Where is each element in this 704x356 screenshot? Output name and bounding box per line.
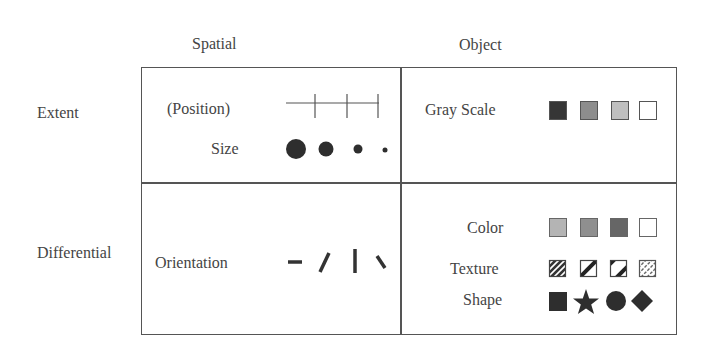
size-circles-icon	[286, 139, 388, 159]
glyph-layer	[0, 0, 704, 356]
square-dark-gray-icon	[611, 219, 628, 237]
square-dark-icon	[550, 102, 567, 120]
gray-scale-squares	[550, 102, 657, 120]
hatch-single-icon	[578, 258, 599, 279]
square-light-icon	[612, 102, 629, 120]
color-squares	[550, 219, 657, 237]
orientation-marks	[288, 249, 385, 273]
texture-squares	[545, 255, 659, 280]
star-shape-icon	[573, 289, 599, 314]
circle-small-icon	[354, 145, 363, 154]
square-shape-icon	[549, 292, 567, 311]
diamond-shape-icon	[631, 290, 653, 312]
square-white-icon	[640, 102, 657, 120]
circle-large-icon	[286, 139, 306, 159]
circle-medium-icon	[319, 142, 334, 157]
square-white-icon	[640, 219, 657, 237]
square-mid-gray-icon	[581, 219, 598, 237]
circle-shape-icon	[606, 291, 626, 311]
square-light-gray-icon	[550, 219, 567, 237]
dash-slant-right-icon	[320, 253, 329, 272]
dash-slant-left-icon	[377, 256, 385, 268]
circle-tiny-icon	[383, 148, 388, 153]
square-mid-icon	[581, 102, 598, 120]
shape-glyphs	[549, 289, 653, 314]
position-ruler-icon	[286, 94, 379, 118]
